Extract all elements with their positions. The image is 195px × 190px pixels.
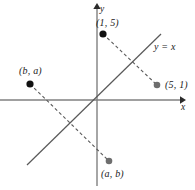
point-b-a-dot [26,80,33,87]
dashed-segment-1-5-to-5-1 [103,34,157,85]
point-b-a-label: (b, a) [19,66,42,76]
point-1-5-dot [99,30,106,37]
point-5-1-dot [154,82,161,89]
point-a-b-label: (a, b) [101,169,124,179]
reflection-over-y-equals-x-figure: (1, 5) (5, 1) (b, a) (a, b) y = x y x [0,0,195,190]
identity-line-label: y = x [154,42,176,52]
y-axis-label: y [100,5,104,15]
point-a-b-dot [106,158,113,165]
point-1-5-label: (1, 5) [96,18,119,28]
figure-canvas [0,0,195,190]
point-5-1-label: (5, 1) [165,80,188,90]
x-axis-label: x [181,103,185,113]
